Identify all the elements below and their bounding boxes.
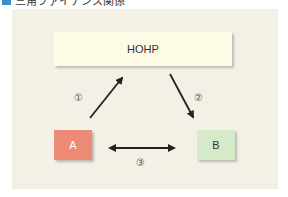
node-b: B (197, 130, 235, 160)
node-hohp: HOHP (54, 32, 232, 66)
blue-square-icon (2, 0, 11, 5)
edge-label-1: ① (74, 92, 83, 103)
node-b-label: B (212, 139, 219, 151)
edge-label-3: ③ (136, 157, 145, 168)
node-hohp-label: HOHP (127, 43, 159, 55)
node-a-label: A (69, 139, 76, 151)
title-text: 三角ファイナンス関係 (15, 0, 125, 8)
diagram-title: 三角ファイナンス関係 (2, 0, 125, 6)
node-a: A (54, 130, 92, 160)
edge-label-2: ② (194, 92, 203, 103)
